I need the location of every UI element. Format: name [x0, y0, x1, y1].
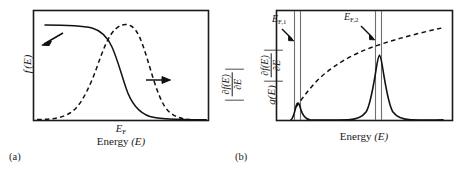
panel-b-label-ef2: EF,2 — [344, 12, 358, 24]
panel-a-x-axis-title: Energy (E) — [66, 136, 176, 147]
panel-b-axes-frame — [277, 11, 453, 121]
curve-product-g-dfde — [291, 55, 443, 120]
panel-b-label-ef1-subscript: F,1 — [278, 18, 286, 25]
panel-b-label-ef2-subscript: F,2 — [350, 16, 358, 23]
panel-b-y-axis-g-term: g(E) — [265, 85, 277, 105]
panel-b-y-axis-label: g(E) | ∂f(E) ∂E | — [260, 26, 283, 126]
panel-b-bracket-left-glyph: | — [262, 79, 281, 82]
panel-b-label-ef1: EF,1 — [272, 14, 286, 26]
panel-b-bracket-right-glyph: | — [262, 48, 281, 51]
panel-b-tag: (b) — [235, 152, 247, 163]
panel-a-tag: (a) — [9, 152, 21, 163]
panel-b: g(E) | ∂f(E) ∂E | EF,1 — [234, 0, 467, 170]
panel-a-axes-frame — [34, 11, 209, 121]
panel-a-x-axis-title-arg: (E) — [131, 135, 145, 147]
panel-b-x-axis-title-arg: (E) — [374, 130, 388, 142]
curve-fermi-derivative — [37, 24, 207, 119]
panel-a-x-axis-title-text: Energy — [97, 135, 129, 147]
panel-a-y-axis-label-arg: (E) — [21, 55, 33, 69]
arrow-to-fermi-curve — [42, 33, 63, 45]
curve-density-of-states — [296, 28, 442, 107]
panel-a-y-axis-label: f(E) — [21, 44, 33, 84]
panel-b-x-axis-title-text: Energy — [340, 130, 372, 142]
curve-fermi-function — [45, 25, 206, 120]
panel-b-x-axis-title: Energy (E) — [309, 131, 419, 142]
panel-b-derivative-fraction: ∂f(E) ∂E — [260, 53, 283, 78]
panel-a-y-axis-label-f: f — [21, 70, 33, 73]
figure-container: f(E) | ∂f(E) ∂E | EF Energy (E) (a) — [0, 0, 467, 170]
arrow-to-derivative-curve — [146, 77, 171, 84]
panel-b-fraction-denominator: ∂E — [272, 53, 283, 78]
panel-a: f(E) | ∂f(E) ∂E | EF Energy (E) (a) — [0, 0, 234, 170]
